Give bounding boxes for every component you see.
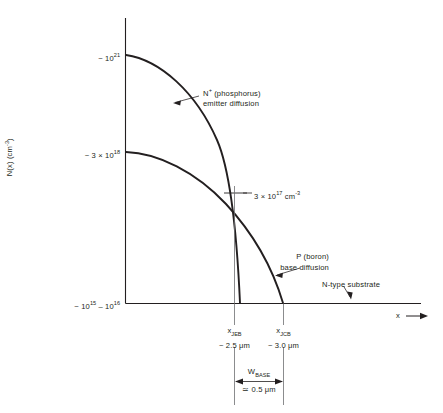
y-axis-title: N(x) (cm-3) — [4, 117, 15, 197]
substrate-leader-arrowhead — [347, 292, 353, 300]
y-tick-label-top: ~ 1021 — [30, 50, 120, 64]
substrate-annotation: N-type substrate — [322, 280, 380, 291]
crossing-concentration-label: 3 × 1017 cm-3 — [254, 188, 300, 202]
junction-cb-depth: ~ 3.0 μm — [248, 341, 319, 352]
base-diffusion-curve — [126, 152, 283, 303]
base-width-symbol: WBASE — [224, 367, 294, 380]
x-axis-label: x — [396, 311, 400, 322]
x-axis-arrow-head — [420, 313, 428, 319]
base-diffusion-annotation: P (boron) base diffusion — [234, 252, 329, 273]
emitter-leader-arrowhead — [173, 100, 181, 105]
doping-profile-figure: N(x) (cm-3) ~ 1021 ~ 3 × 1018 ~ 1015 – 1… — [0, 0, 443, 413]
base-width-value: ≃ 0.5 μm — [224, 385, 294, 396]
base-leader-arrowhead — [275, 273, 283, 278]
junction-cb-symbol: xJCB — [248, 326, 319, 339]
emitter-diffusion-annotation: N+ (phosphorus) emitter diffusion — [203, 85, 313, 110]
y-tick-label-mid: ~ 3 × 1018 — [20, 147, 120, 161]
y-tick-label-bottom: ~ 1015 – 1016 — [10, 298, 120, 312]
